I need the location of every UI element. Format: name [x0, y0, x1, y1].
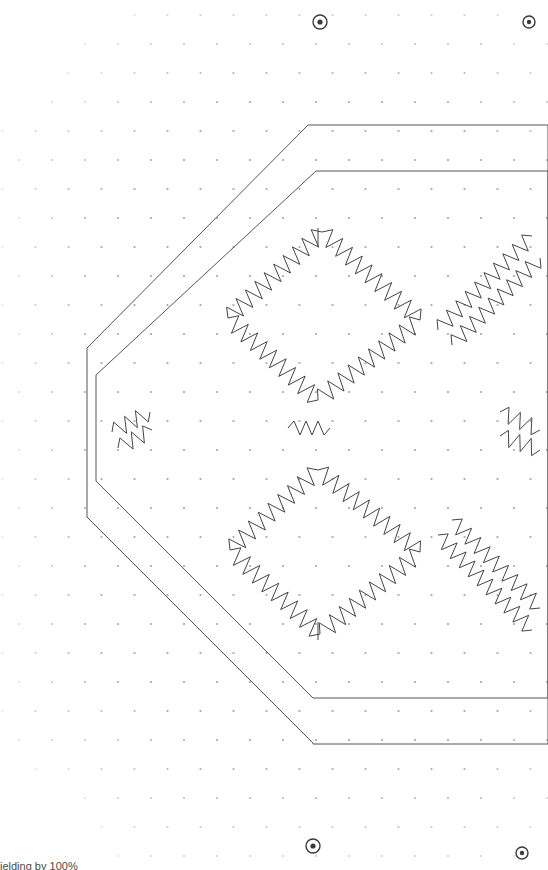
grid-dot: [67, 130, 69, 132]
grid-dot: [381, 739, 383, 741]
grid-dot: [480, 449, 482, 451]
trace-left-pad-a[interactable]: [112, 411, 150, 434]
grid-dot: [496, 304, 498, 306]
grid-dot: [249, 449, 251, 451]
mounting-hole-top-left-pad[interactable]: [317, 19, 322, 24]
grid-dot: [133, 710, 135, 712]
status-bar-text: ielding by 100%: [0, 859, 78, 870]
trace-center-node-left[interactable]: [288, 421, 330, 435]
grid-dot: [513, 275, 515, 277]
grid-dot: [133, 304, 135, 306]
grid-dot: [348, 217, 350, 219]
grid-dot: [117, 565, 119, 567]
grid-dot: [199, 362, 201, 364]
grid-dot: [265, 768, 267, 770]
grid-dot: [51, 623, 53, 625]
serpentine-trace-layer[interactable]: [112, 228, 541, 640]
grid-dot: [166, 478, 168, 480]
trace-right-pad-a[interactable]: [500, 407, 540, 434]
grid-dot: [34, 652, 36, 654]
grid-dot: [331, 14, 333, 16]
grid-dot: [51, 101, 53, 103]
grid-dot: [331, 188, 333, 190]
grid-dot: [331, 362, 333, 364]
grid-dot: [496, 72, 498, 74]
grid-dot: [315, 449, 317, 451]
cad-drawing-surface[interactable]: [0, 0, 548, 870]
trace-right-pad-b[interactable]: [500, 430, 540, 455]
grid-dot: [430, 478, 432, 480]
trace-diamond-mid-left[interactable]: [228, 316, 318, 403]
mounting-hole-layer[interactable]: [306, 15, 535, 859]
grid-dot: [496, 768, 498, 770]
grid-dot: [447, 217, 449, 219]
grid-dot: [100, 304, 102, 306]
grid-dot: [331, 304, 333, 306]
grid-dot: [199, 246, 201, 248]
grid-dot: [249, 797, 251, 799]
grid-dot: [249, 623, 251, 625]
grid-dot: [51, 391, 53, 393]
board-outline-octagon[interactable]: [87, 125, 548, 744]
grid-dot: [100, 710, 102, 712]
trace-diamond-mid-right[interactable]: [318, 317, 421, 400]
grid-dot: [315, 333, 317, 335]
grid-dot: [529, 652, 531, 654]
grid-dot: [133, 652, 135, 654]
grid-dot: [381, 391, 383, 393]
trace-diamond-bottom-left[interactable]: [230, 548, 320, 636]
grid-dot: [364, 246, 366, 248]
grid-dot: [513, 217, 515, 219]
grid-dot: [150, 449, 152, 451]
grid-dot: [1, 420, 3, 422]
grid-dot: [298, 536, 300, 538]
trace-diamond-upper-left[interactable]: [227, 230, 322, 318]
grid-dot: [18, 275, 20, 277]
board-outline-outer[interactable]: [87, 125, 548, 744]
trace-diamond-lower-right[interactable]: [318, 467, 421, 552]
mounting-hole-bottom-right-pad[interactable]: [520, 851, 524, 855]
grid-dot: [249, 159, 251, 161]
trace-diamond-bottom-right[interactable]: [319, 549, 420, 634]
grid-dot: [166, 710, 168, 712]
grid-dot: [166, 304, 168, 306]
grid-dot: [100, 478, 102, 480]
grid-dot: [364, 14, 366, 16]
grid-dot: [34, 130, 36, 132]
grid-dot: [447, 565, 449, 567]
grid-dot: [216, 565, 218, 567]
grid-dot: [183, 681, 185, 683]
grid-dot: [397, 304, 399, 306]
grid-dot: [315, 159, 317, 161]
grid-dot: [67, 420, 69, 422]
trace-right-upper-b[interactable]: [451, 258, 541, 345]
grid-dot: [133, 768, 135, 770]
grid-dot: [183, 565, 185, 567]
grid-dot: [1, 536, 3, 538]
grid-dot: [364, 130, 366, 132]
grid-dot: [18, 159, 20, 161]
mounting-hole-bottom-left-pad[interactable]: [310, 843, 315, 848]
board-outline-inner[interactable]: [96, 171, 548, 698]
trace-left-pad-b[interactable]: [118, 426, 152, 449]
grid-dot: [51, 159, 53, 161]
mounting-hole-top-right-pad[interactable]: [527, 20, 531, 24]
grid-dot: [447, 623, 449, 625]
grid-dot: [414, 275, 416, 277]
grid-dot: [529, 362, 531, 364]
grid-dot: [232, 362, 234, 364]
grid-dot: [496, 710, 498, 712]
grid-dot: [496, 130, 498, 132]
grid-dot: [1, 652, 3, 654]
grid-dot: [265, 130, 267, 132]
trace-diamond-upper-right[interactable]: [322, 230, 421, 320]
grid-dot: [117, 217, 119, 219]
grid-dot: [463, 420, 465, 422]
grid-dot: [216, 159, 218, 161]
grid-dot: [496, 478, 498, 480]
grid-dot: [117, 333, 119, 335]
trace-diamond-lower-left[interactable]: [229, 468, 318, 550]
grid-dot: [381, 797, 383, 799]
pcb-layout-canvas[interactable]: ielding by 100%: [0, 0, 548, 870]
trace-right-upper-a[interactable]: [437, 235, 532, 330]
